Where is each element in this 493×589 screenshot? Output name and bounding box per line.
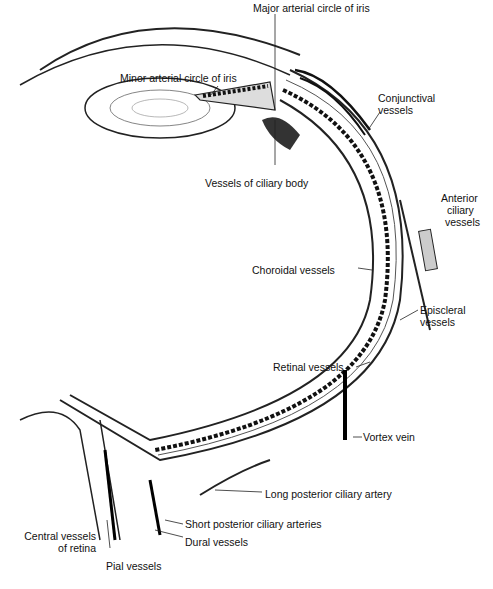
label-major-arterial-circle: Major arterial circle of iris: [253, 2, 370, 14]
label-conjunctival-2: vessels: [378, 104, 413, 116]
label-vortex-vein: Vortex vein: [363, 431, 415, 443]
label-central-vessels-2: of retina: [20, 542, 96, 554]
label-anterior-ciliary-2: ciliary: [447, 204, 474, 216]
label-long-posterior-ciliary-artery: Long posterior ciliary artery: [265, 488, 392, 500]
label-anterior-ciliary-1: Anterior: [441, 192, 478, 204]
label-vessels-of-ciliary-body: Vessels of ciliary body: [205, 177, 308, 189]
label-episcleral-1: Episcleral: [420, 304, 466, 316]
label-retinal-vessels: Retinal vessels: [273, 361, 344, 373]
eye-vasculature-diagram: Major arterial circle of iris Minor arte…: [0, 0, 493, 589]
label-minor-arterial-circle: Minor arterial circle of iris: [120, 72, 237, 84]
label-dural-vessels: Dural vessels: [185, 536, 248, 548]
label-pial-vessels: Pial vessels: [106, 560, 161, 572]
label-central-vessels-1: Central vessels: [20, 530, 96, 542]
label-short-posterior-ciliary-arteries: Short posterior ciliary arteries: [185, 518, 322, 530]
label-anterior-ciliary-3: vessels: [445, 216, 480, 228]
label-episcleral-2: vessels: [420, 316, 455, 328]
eye-cross-section-illustration: [0, 0, 493, 589]
label-conjunctival-1: Conjunctival: [378, 92, 435, 104]
label-choroidal-vessels: Choroidal vessels: [252, 264, 335, 276]
